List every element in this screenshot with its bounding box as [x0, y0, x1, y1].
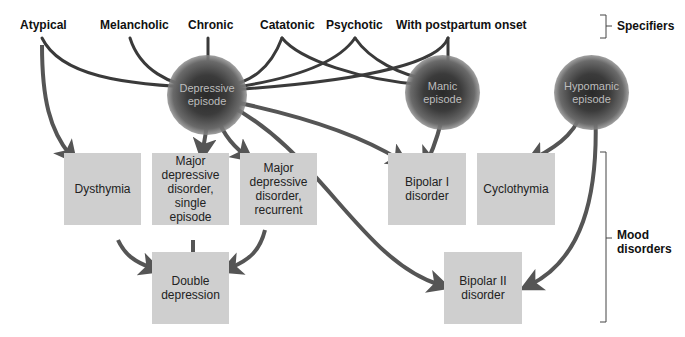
bipolar1-label: Bipolar I disorder	[397, 175, 457, 203]
depressive-episode: Depressive episode	[167, 55, 247, 135]
manic-episode: Manic episode	[405, 55, 480, 130]
specifier-atypical: Atypical	[20, 18, 67, 32]
manic-episode-label: Manic episode	[418, 80, 468, 106]
specifier-psychotic: Psychotic	[326, 18, 383, 32]
box-bipolar2: Bipolar II disorder	[444, 252, 522, 324]
box-dysthymia: Dysthymia	[64, 153, 141, 225]
mdd-single-label: Major depressive disorder, single episod…	[156, 154, 226, 224]
mood-disorders-label: Mood disorders	[617, 228, 677, 256]
mdd-recurrent-label: Major depressive disorder, recurrent	[244, 161, 314, 217]
dysthymia-label: Dysthymia	[74, 182, 130, 196]
cyclothymia-label: Cyclothymia	[483, 182, 548, 196]
hypomanic-episode: Hypomanic episode	[554, 55, 629, 130]
specifier-catatonic: Catatonic	[260, 18, 315, 32]
double-depression-label: Double depression	[156, 274, 226, 302]
hypomanic-episode-label: Hypomanic episode	[562, 80, 622, 106]
bipolar2-label: Bipolar II disorder	[453, 274, 513, 302]
depressive-episode-label: Depressive episode	[177, 82, 237, 108]
specifiers-label: Specifiers	[617, 19, 674, 33]
box-bipolar1: Bipolar I disorder	[388, 153, 466, 225]
box-double-depression: Double depression	[152, 252, 229, 324]
box-cyclothymia: Cyclothymia	[477, 153, 555, 225]
mood-disorders-diagram: Atypical Melancholic Chronic Catatonic P…	[0, 0, 685, 337]
specifier-melancholic: Melancholic	[100, 18, 169, 32]
box-mdd-single: Major depressive disorder, single episod…	[152, 153, 229, 225]
specifier-chronic: Chronic	[188, 18, 233, 32]
specifier-postpartum: With postpartum onset	[396, 18, 527, 32]
box-mdd-recurrent: Major depressive disorder, recurrent	[240, 153, 317, 225]
